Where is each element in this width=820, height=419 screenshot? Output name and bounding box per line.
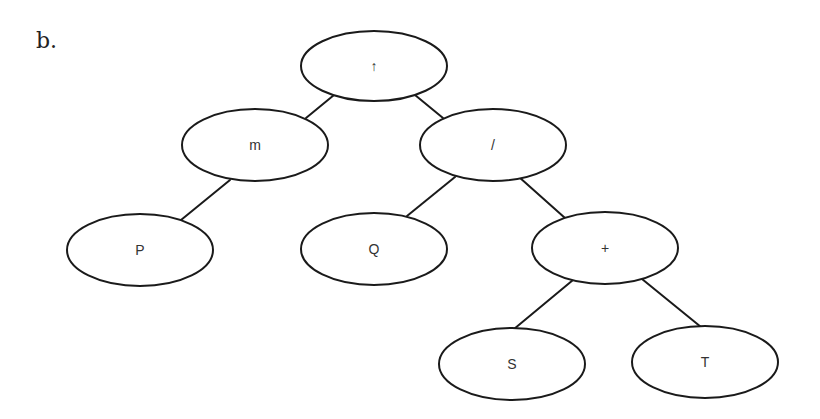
- expression-tree: ↑ m / P Q + S T: [0, 0, 820, 419]
- edge-root-div: [415, 95, 443, 118]
- node-root-exponent: ↑: [301, 31, 447, 101]
- edge-div-plus: [519, 177, 565, 218]
- node-label: m: [249, 137, 261, 153]
- node-label: T: [701, 354, 710, 370]
- nodes: ↑ m / P Q + S T: [67, 31, 778, 400]
- edge-div-q: [407, 177, 455, 216]
- node-label: /: [491, 137, 495, 153]
- node-s: S: [439, 328, 585, 400]
- edge-plus-t: [642, 279, 701, 327]
- node-divide: /: [420, 109, 566, 181]
- node-plus: +: [532, 212, 678, 284]
- edge-root-m: [306, 95, 334, 118]
- edge-plus-s: [514, 280, 573, 329]
- node-t: T: [632, 326, 778, 398]
- node-label: ↑: [371, 58, 378, 74]
- node-m: m: [182, 109, 328, 181]
- node-label: +: [601, 240, 609, 256]
- node-label: P: [135, 242, 144, 258]
- edge-m-p: [181, 180, 230, 220]
- node-label: Q: [369, 241, 380, 257]
- node-p: P: [67, 214, 213, 286]
- node-q: Q: [301, 213, 447, 285]
- node-label: S: [507, 356, 516, 372]
